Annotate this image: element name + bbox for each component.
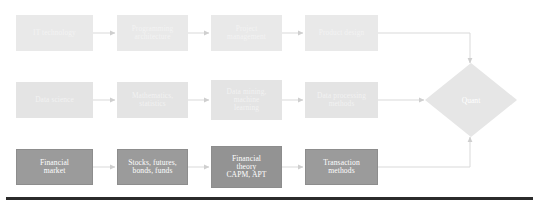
node-mathematics-statistics-label: Mathematics, statistics bbox=[117, 92, 188, 108]
node-programming-architecture[interactable]: Programming architecture bbox=[117, 15, 188, 51]
node-stocks-futures-bonds-funds[interactable]: Stocks, futures, bonds, funds bbox=[117, 149, 188, 185]
node-transaction-methods[interactable]: Transaction methods bbox=[305, 149, 378, 185]
node-it-technology-label: IT technology bbox=[16, 29, 93, 37]
node-stocks-futures-bonds-funds-label: Stocks, futures, bonds, funds bbox=[118, 159, 187, 175]
node-data-science[interactable]: Data science bbox=[16, 82, 93, 118]
node-data-mining-machine-learning-label: Data mining, machine learning bbox=[211, 88, 282, 112]
node-financial-theory-capm-apt[interactable]: Financial theory CAPM, APT bbox=[211, 146, 282, 188]
flowchart-canvas: IT technology Programming architecture P… bbox=[0, 0, 539, 208]
bottom-rule-divider bbox=[6, 197, 533, 200]
node-it-technology[interactable]: IT technology bbox=[16, 15, 93, 51]
node-project-management[interactable]: Project management bbox=[211, 15, 282, 51]
node-data-science-label: Data science bbox=[16, 96, 93, 104]
node-financial-market[interactable]: Financial market bbox=[16, 149, 93, 185]
node-financial-market-label: Financial market bbox=[17, 159, 92, 175]
node-programming-architecture-label: Programming architecture bbox=[117, 25, 188, 41]
node-data-processing-methods[interactable]: Data processing methods bbox=[305, 82, 378, 118]
connector-row3-to-quant bbox=[378, 137, 470, 167]
connector-row1-to-quant bbox=[378, 33, 470, 63]
node-product-design-label: Product design bbox=[305, 29, 378, 37]
node-data-mining-machine-learning[interactable]: Data mining, machine learning bbox=[211, 80, 282, 120]
node-quant-label: Quant bbox=[462, 96, 481, 105]
node-project-management-label: Project management bbox=[211, 25, 282, 41]
node-product-design[interactable]: Product design bbox=[305, 15, 378, 51]
node-data-processing-methods-label: Data processing methods bbox=[305, 92, 378, 108]
node-mathematics-statistics[interactable]: Mathematics, statistics bbox=[117, 82, 188, 118]
node-transaction-methods-label: Transaction methods bbox=[306, 159, 377, 175]
node-financial-theory-capm-apt-label: Financial theory CAPM, APT bbox=[212, 155, 281, 180]
node-quant[interactable]: Quant bbox=[424, 62, 518, 138]
